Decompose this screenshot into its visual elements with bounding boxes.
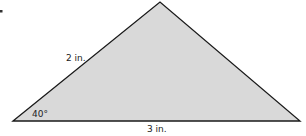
bullet-dot: [0, 10, 3, 13]
side-length-label: 2 in.: [66, 54, 86, 63]
base-length-label: 3 in.: [147, 125, 167, 134]
angle-label: 40°: [32, 110, 48, 119]
triangle-shape: [13, 2, 300, 121]
